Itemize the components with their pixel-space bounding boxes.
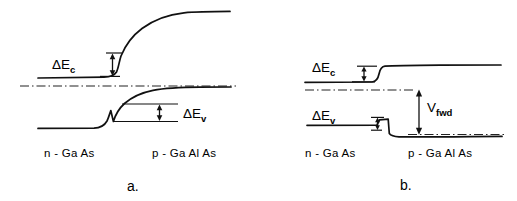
panel-b-vfwd-symbol: V (427, 100, 436, 115)
panel-b-delta-ec-arrow-head-up (361, 67, 366, 72)
panel-b: ΔEc ΔEv Vfwd n - Ga As p - Ga Al As (305, 60, 506, 193)
panel-b-vfwd-subscript: fwd (436, 107, 453, 118)
figure-root: ΔEc ΔEv n - Ga As p - Ga Al As a. (0, 0, 517, 201)
panel-a-delta-ec-symbol: ΔE (52, 57, 70, 72)
panel-b-delta-ec-label: ΔEc (312, 60, 335, 78)
panel-a-caption: a. (127, 178, 139, 194)
panel-b-delta-ev-label: ΔEv (312, 108, 336, 126)
panel-a-delta-ev-measure (113, 104, 178, 122)
panel-a-delta-ec-subscript: c (70, 64, 75, 75)
panel-b-vfwd-arrow-head-down (416, 128, 422, 135)
panel-b-delta-ec-arrow-head-down (361, 76, 366, 81)
panel-a-delta-ev-label: ΔEv (183, 106, 207, 124)
panel-b-caption: b. (400, 177, 412, 193)
panel-a-delta-ev-subscript: v (201, 113, 207, 124)
panel-b-delta-ev-subscript: v (330, 115, 336, 126)
panel-b-delta-ec-symbol: ΔE (312, 60, 330, 75)
panel-a-delta-ec-arrow-head-up (110, 53, 116, 59)
panel-a-right-material-label: p - Ga Al As (152, 147, 216, 159)
panel-b-vfwd-arrow-head-up (416, 90, 422, 97)
panel-a-delta-ec-label: ΔEc (52, 57, 75, 75)
panel-a: ΔEc ΔEv n - Ga As p - Ga Al As a. (20, 11, 236, 194)
panel-b-valence-band-curve (307, 119, 502, 137)
panel-b-delta-ec-subscript: c (330, 67, 335, 78)
band-diagram-svg: ΔEc ΔEv n - Ga As p - Ga Al As a. (0, 0, 517, 201)
panel-a-delta-ev-symbol: ΔE (183, 106, 201, 121)
panel-b-delta-ec-measure (352, 66, 377, 82)
panel-b-vfwd-measure (416, 90, 422, 135)
panel-b-right-material-label: p - Ga Al As (408, 147, 472, 159)
panel-a-left-material-label: n - Ga As (44, 147, 95, 159)
panel-b-left-material-label: n - Ga As (305, 147, 356, 159)
panel-a-delta-ev-arrow-head-up (157, 104, 163, 110)
panel-a-delta-ev-arrow-head-down (157, 115, 163, 121)
panel-b-vfwd-label: Vfwd (427, 100, 453, 118)
panel-b-delta-ev-symbol: ΔE (312, 108, 330, 123)
panel-b-delta-ev-arrow-head-down (375, 125, 380, 130)
